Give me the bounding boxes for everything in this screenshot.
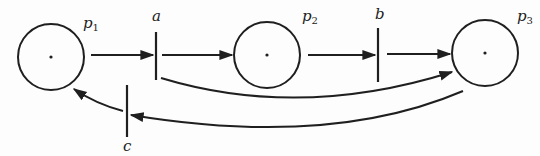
arc-p3-to-c [131, 91, 463, 127]
svg-text:c: c [123, 137, 132, 155]
transition-a: a [152, 7, 161, 80]
svg-text:p1: p1 [83, 14, 99, 33]
arc-c-to-p1 [74, 89, 123, 111]
svg-text:p2: p2 [302, 7, 318, 26]
svg-text:p3: p3 [517, 7, 533, 26]
arc-a-to-p3 [161, 72, 452, 98]
place-p1: p1 [18, 14, 99, 90]
token-dot [265, 53, 268, 56]
place-p2: p2 [234, 7, 318, 88]
transition-c: c [123, 85, 132, 155]
transition-b: b [375, 5, 385, 82]
place-p3: p3 [452, 7, 533, 86]
svg-text:b: b [375, 5, 385, 23]
token-dot [483, 51, 486, 54]
token-dot [49, 55, 52, 58]
svg-text:a: a [152, 7, 161, 25]
petri-net-diagram: p1 p2 p3 a b c [0, 0, 540, 156]
diagram-svg: p1 p2 p3 a b c [0, 0, 540, 156]
